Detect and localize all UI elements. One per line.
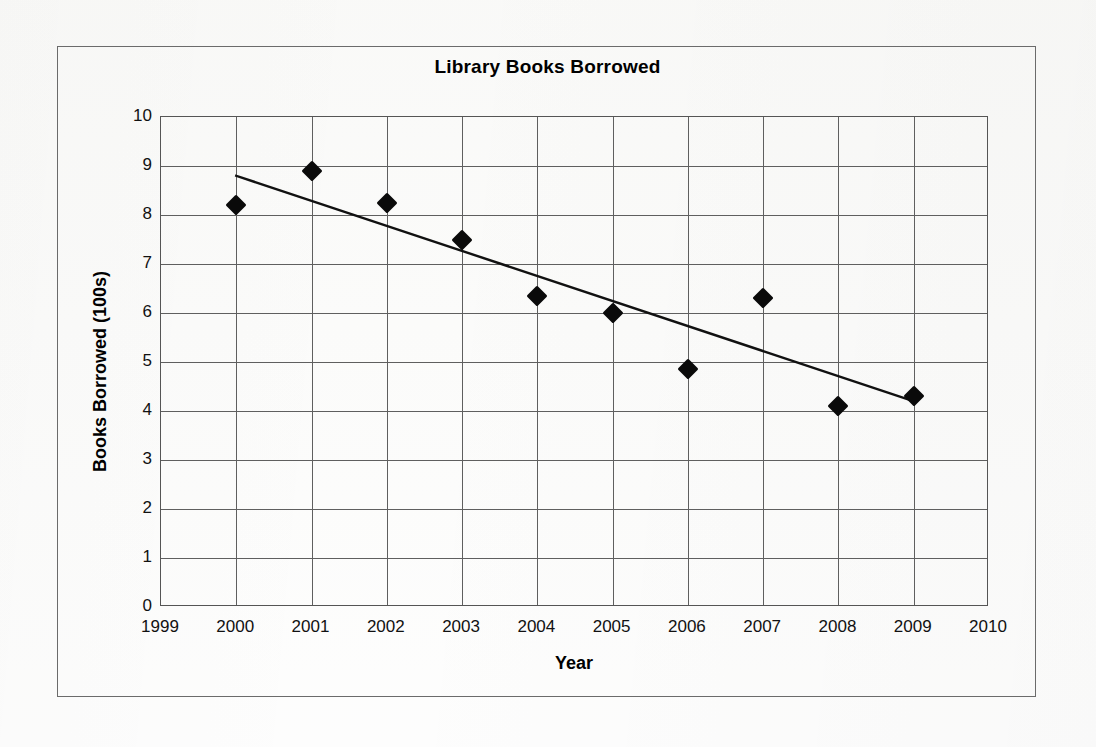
gridline-vertical [763, 117, 764, 605]
y-axis-tick-label: 10 [106, 106, 152, 126]
data-point-marker [376, 192, 397, 213]
data-point-marker [828, 395, 849, 416]
gridline-horizontal [161, 264, 987, 265]
x-axis-tick-label: 2008 [797, 617, 877, 637]
y-axis-tick-label: 1 [106, 547, 152, 567]
data-point-marker [527, 285, 548, 306]
data-point-marker [602, 302, 623, 323]
y-axis-tick-label: 3 [106, 449, 152, 469]
x-axis-title: Year [160, 653, 988, 674]
x-axis-tick-label: 2009 [873, 617, 953, 637]
x-axis-tick-label: 2002 [346, 617, 426, 637]
y-axis-tick-label: 5 [106, 351, 152, 371]
data-point-marker [226, 195, 247, 216]
gridline-vertical [613, 117, 614, 605]
data-point-marker [301, 160, 322, 181]
gridline-horizontal [161, 460, 987, 461]
gridline-horizontal [161, 411, 987, 412]
gridline-vertical [462, 117, 463, 605]
x-axis-tick-label: 2004 [496, 617, 576, 637]
gridline-vertical [387, 117, 388, 605]
x-axis-tick-label: 1999 [120, 617, 200, 637]
y-axis-tick-label: 0 [106, 596, 152, 616]
x-axis-tick-label: 2000 [195, 617, 275, 637]
chart-frame: Library Books Borrowed Books Borrowed (1… [57, 46, 1036, 697]
chart-title: Library Books Borrowed [58, 56, 1037, 78]
gridline-vertical [838, 117, 839, 605]
gridline-horizontal [161, 509, 987, 510]
gridline-vertical [537, 117, 538, 605]
plot-area [160, 116, 988, 606]
gridline-vertical [312, 117, 313, 605]
y-axis-tick-labels: 012345678910 [98, 116, 152, 606]
x-axis-tick-label: 2010 [948, 617, 1028, 637]
x-axis-tick-labels: 1999200020012002200320042005200620072008… [160, 617, 988, 643]
y-axis-tick-label: 6 [106, 302, 152, 322]
y-axis-tick-label: 7 [106, 253, 152, 273]
gridline-vertical [914, 117, 915, 605]
x-axis-tick-label: 2005 [572, 617, 652, 637]
data-point-marker [753, 288, 774, 309]
x-axis-tick-label: 2001 [271, 617, 351, 637]
gridline-horizontal [161, 558, 987, 559]
gridline-horizontal [161, 215, 987, 216]
gridline-horizontal [161, 313, 987, 314]
x-axis-tick-label: 2007 [722, 617, 802, 637]
gridline-vertical [236, 117, 237, 605]
x-axis-tick-label: 2003 [421, 617, 501, 637]
chart-canvas: Library Books Borrowed Books Borrowed (1… [0, 0, 1096, 747]
y-axis-tick-label: 2 [106, 498, 152, 518]
gridline-horizontal [161, 166, 987, 167]
gridline-horizontal [161, 362, 987, 363]
y-axis-tick-label: 4 [106, 400, 152, 420]
y-axis-tick-label: 9 [106, 155, 152, 175]
x-axis-tick-label: 2006 [647, 617, 727, 637]
data-point-marker [451, 229, 472, 250]
data-point-marker [903, 386, 924, 407]
y-axis-tick-label: 8 [106, 204, 152, 224]
